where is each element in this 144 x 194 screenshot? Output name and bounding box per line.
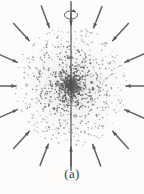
inward-arrow (69, 2, 73, 25)
inward-arrow (125, 110, 144, 119)
inward-arrow (113, 24, 129, 41)
inward-arrow (0, 110, 17, 119)
collapse-diagram (0, 0, 144, 194)
inward-arrow (40, 144, 48, 165)
inward-arrow (41, 6, 49, 27)
inward-arrow (94, 7, 102, 28)
inward-arrow (0, 84, 16, 88)
inward-arrow (0, 54, 17, 63)
inward-arrow (113, 131, 129, 148)
inward-arrow (126, 84, 144, 88)
inward-arrow (93, 145, 101, 166)
inward-arrow (14, 131, 30, 148)
inward-arrow (125, 54, 144, 63)
figure-caption: (a) (0, 166, 144, 182)
inward-arrow (14, 24, 30, 41)
figure-panel-a: (a) (0, 0, 144, 194)
